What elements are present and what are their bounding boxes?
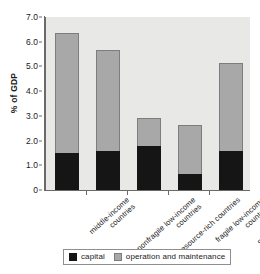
y-tick-mark: [39, 115, 42, 116]
chart-legend: capitaloperation and maintenance: [63, 249, 231, 265]
bar-segment-capital[interactable]: [137, 146, 161, 190]
y-tick-label: 4.0: [26, 87, 38, 96]
y-tick-label: 2.0: [26, 136, 38, 145]
bar-segment-operation-and-maintenance[interactable]: [219, 63, 243, 151]
legend-entry[interactable]: operation and maintenance: [114, 253, 225, 261]
bar-stack[interactable]: [219, 63, 243, 190]
y-tick-mark: [39, 66, 42, 67]
legend-entry[interactable]: capital: [69, 253, 105, 261]
plot-area: [45, 17, 250, 190]
bar-segment-capital[interactable]: [55, 153, 79, 190]
y-tick-label: 3.0: [26, 112, 38, 121]
x-axis-tick-labels: middle-incomecountriesnonfragile low-inc…: [0, 190, 260, 246]
bar-segment-operation-and-maintenance[interactable]: [96, 50, 120, 151]
legend-swatch-icon: [69, 253, 77, 261]
bar-stack[interactable]: [55, 33, 79, 190]
bar-segment-capital[interactable]: [219, 151, 243, 190]
bar-segment-capital[interactable]: [178, 174, 202, 190]
legend-label: capital: [81, 253, 105, 261]
bar-stack[interactable]: [137, 118, 161, 190]
y-axis-tick-labels: 01.02.03.04.05.06.07.0: [18, 17, 42, 190]
x-tick-mark: [86, 191, 87, 195]
y-tick-label: 1.0: [26, 161, 38, 170]
y-tick-mark: [39, 17, 42, 18]
legend-label: operation and maintenance: [126, 253, 225, 261]
y-tick-mark: [39, 140, 42, 141]
bar-stack[interactable]: [178, 125, 202, 190]
x-tick-mark: [168, 191, 169, 195]
bar-segment-operation-and-maintenance[interactable]: [55, 33, 79, 153]
bar-segment-operation-and-maintenance[interactable]: [137, 118, 161, 146]
y-tick-label: 5.0: [26, 62, 38, 71]
chart-figure: % of GDP 01.02.03.04.05.06.07.0 middle-i…: [0, 0, 260, 274]
bar-segment-capital[interactable]: [96, 151, 120, 190]
legend-swatch-icon: [114, 253, 122, 261]
bar-stack[interactable]: [96, 50, 120, 190]
y-tick-mark: [39, 41, 42, 42]
x-category-label: middle-incomecountries: [88, 196, 137, 243]
title-remnant: [30, 0, 90, 5]
y-tick-label: 6.0: [26, 37, 38, 46]
bar-segment-operation-and-maintenance[interactable]: [178, 125, 202, 174]
x-tick-mark: [209, 191, 210, 195]
x-tick-mark: [127, 191, 128, 195]
y-tick-label: 7.0: [26, 13, 38, 22]
y-tick-mark: [39, 165, 42, 166]
y-tick-mark: [39, 91, 42, 92]
